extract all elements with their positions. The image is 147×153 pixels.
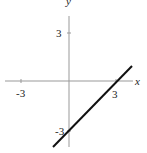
x-tick-label-neg3: -3 [16,87,26,99]
y-tick-label-3: 3 [56,27,62,39]
y-axis-label: y [65,0,71,7]
x-tick-label-3: 3 [112,88,118,100]
x-axis-label: x [134,75,140,87]
graph: y x -3 3 3 -3 [0,0,147,153]
data-line [53,66,132,147]
